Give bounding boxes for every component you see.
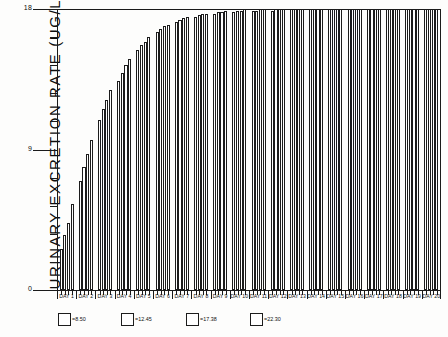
- bar: [271, 11, 274, 290]
- bar: [424, 9, 427, 290]
- legend-item: =8.50: [58, 311, 86, 327]
- legend-swatch: [58, 313, 71, 326]
- x-axis-tick-label: DAY 16: [345, 292, 364, 300]
- bar: [313, 9, 316, 290]
- bar: [67, 223, 70, 290]
- bar: [255, 11, 258, 290]
- bar: [128, 59, 131, 290]
- bar: [359, 9, 362, 290]
- x-axis-tick-label: DAY 7: [172, 292, 191, 300]
- bar: [390, 9, 393, 290]
- x-axis-tick-label: DAY 4: [115, 292, 134, 300]
- x-axis-tick-label: DAY 19: [403, 292, 422, 300]
- bar: [339, 9, 342, 290]
- legend-item: =17.38: [186, 311, 217, 327]
- legend-label: =17.38: [200, 316, 217, 323]
- bar: [370, 9, 373, 290]
- bar: [259, 9, 262, 290]
- bar: [409, 9, 412, 290]
- bar: [252, 11, 255, 290]
- y-axis-minor-tick: [50, 65, 58, 66]
- bar: [194, 17, 197, 290]
- bar: [355, 9, 358, 290]
- bar: [351, 9, 354, 290]
- bar: [82, 167, 85, 290]
- x-axis-tick-label: DAY 2: [76, 292, 95, 300]
- legend-item: =22.30: [250, 311, 281, 327]
- bar: [243, 9, 246, 290]
- bar: [278, 9, 281, 290]
- y-axis-minor-tick: [50, 121, 58, 122]
- bar: [297, 9, 300, 290]
- x-axis-tick-label: DAY 13: [287, 292, 306, 300]
- bar: [86, 154, 89, 290]
- bar: [428, 9, 431, 290]
- bar: [316, 9, 319, 290]
- bar: [282, 9, 285, 290]
- x-axis-tick-label: DAY 11: [249, 292, 268, 300]
- y-axis-tick-label: 0: [28, 285, 32, 293]
- bar: [274, 9, 277, 290]
- y-axis-minor-tick: [50, 37, 58, 38]
- bar: [213, 14, 216, 290]
- bar: [90, 140, 93, 290]
- bar: [217, 12, 220, 290]
- bar: [136, 50, 139, 290]
- legend-swatch: [121, 313, 134, 326]
- chart-figure: URINARY EXCRETION RATE (UG/L) 0918 DAY 1…: [0, 0, 448, 337]
- bar: [163, 26, 166, 290]
- y-axis-major-tick: [33, 9, 58, 10]
- bar: [79, 181, 82, 290]
- bar: [412, 9, 415, 290]
- bar: [435, 9, 438, 290]
- bar: [178, 20, 181, 290]
- bar: [63, 235, 66, 290]
- plot-area: 0918: [57, 9, 441, 291]
- legend-item: =12.45: [121, 311, 152, 327]
- y-axis-minor-tick: [50, 262, 58, 263]
- x-axis-tick-label: DAY 12: [268, 292, 287, 300]
- plot-top-border: [57, 9, 441, 10]
- bar: [167, 25, 170, 290]
- y-axis-tick-label: 18: [24, 4, 32, 12]
- x-axis-tick-labels: DAY 1DAY 2DAY 3DAY 4DAY 5DAY 6DAY 7DAY 8…: [57, 292, 441, 303]
- bar: [220, 12, 223, 290]
- bar: [124, 65, 127, 290]
- bar: [332, 9, 335, 290]
- x-axis-tick-label: DAY 9: [211, 292, 230, 300]
- x-axis-tick-label: DAY 15: [326, 292, 345, 300]
- bar: [397, 9, 400, 290]
- bar: [294, 9, 297, 290]
- bar: [121, 73, 124, 290]
- bar: [393, 9, 396, 290]
- x-axis-tick-label: DAY 14: [307, 292, 326, 300]
- bar: [60, 249, 63, 290]
- bar: [240, 11, 243, 290]
- x-axis-tick-label: DAY 3: [95, 292, 114, 300]
- bar: [205, 14, 208, 290]
- bar: [198, 15, 201, 290]
- bar: [378, 9, 381, 290]
- bar: [102, 109, 105, 290]
- bar: [159, 29, 162, 290]
- bar: [367, 9, 370, 290]
- bar: [182, 18, 185, 290]
- bar: [432, 9, 435, 290]
- y-axis-major-tick: [33, 150, 58, 151]
- bar: [175, 22, 178, 291]
- bar: [144, 42, 147, 290]
- bar: [156, 32, 159, 290]
- legend-label: =8.50: [72, 316, 86, 323]
- y-axis-minor-tick: [50, 234, 58, 235]
- chart-legend: =8.50=12.45=17.38=22.30: [58, 311, 358, 331]
- bar: [405, 9, 408, 290]
- legend-swatch: [186, 313, 199, 326]
- y-axis-tick-label: 9: [28, 145, 32, 153]
- legend-swatch: [250, 313, 263, 326]
- bar: [263, 9, 266, 290]
- x-axis-tick-label: DAY 18: [383, 292, 402, 300]
- bar: [224, 11, 227, 290]
- y-axis-minor-tick: [50, 93, 58, 94]
- x-axis-tick-label: DAY 17: [364, 292, 383, 300]
- bar: [71, 204, 74, 290]
